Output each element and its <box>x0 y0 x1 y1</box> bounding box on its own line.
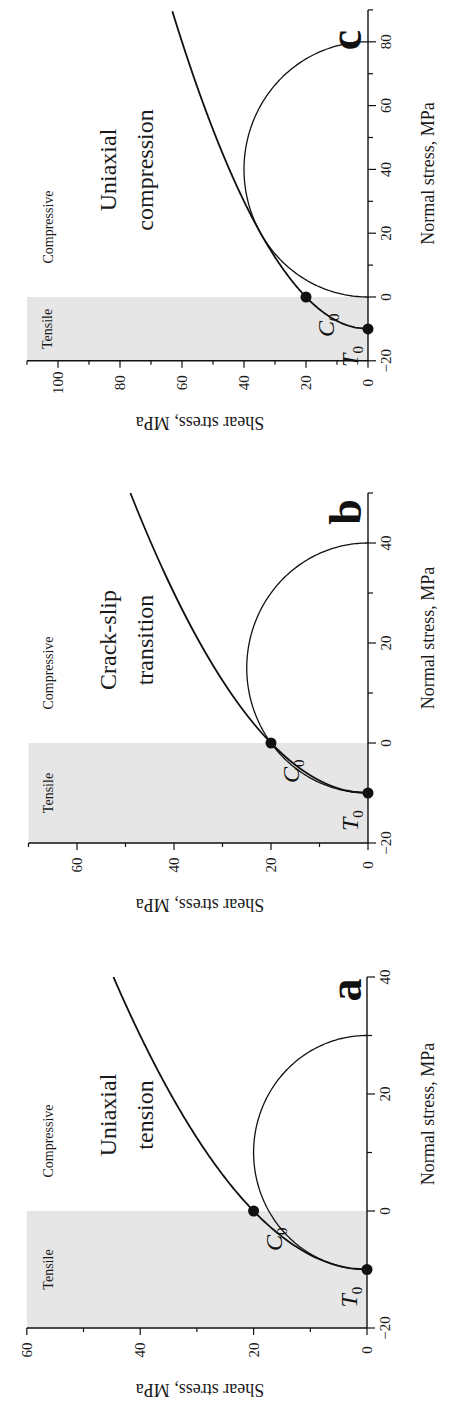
tau-tick-label: 60 <box>19 1343 35 1358</box>
sigma-tick-label: 0 <box>378 293 394 301</box>
tau-tick-label: 20 <box>246 1343 262 1358</box>
y-axis-title: Shear stress, MPa <box>136 413 265 433</box>
panel-b: −20020400204060Normal stress, MPaShear s… <box>29 493 439 915</box>
panel-letter-c: c <box>320 30 371 50</box>
annotation-line-2: compression <box>132 109 158 230</box>
x-axis-title: Normal stress, MPa <box>418 1043 438 1186</box>
sigma-tick-label: 60 <box>378 98 394 113</box>
annotation-line-1: Uniaxial <box>95 128 121 211</box>
tau-tick-label: 40 <box>166 858 182 873</box>
sigma-tick-label: 80 <box>378 34 394 49</box>
tau-tick-label: 20 <box>298 375 314 390</box>
griffith-envelope <box>172 11 368 329</box>
tau-tick-label: 0 <box>360 861 376 869</box>
panel-letter-b: b <box>320 499 371 525</box>
point-c0 <box>301 292 312 303</box>
tensile-label: Tensile <box>41 1249 56 1289</box>
sigma-tick-label: 40 <box>378 162 394 177</box>
sigma-tick-label: 0 <box>377 1207 393 1215</box>
point-t0 <box>363 788 374 799</box>
panel-a: −20020400204060Normal stress, MPaShear s… <box>19 970 438 1401</box>
sigma-tick-label: −20 <box>378 349 394 372</box>
sigma-tick-label: 20 <box>378 226 394 241</box>
annotation-line-1: Crack-slip <box>95 590 121 690</box>
sigma-tick-label: 0 <box>378 739 394 747</box>
sigma-tick-label: −20 <box>377 1316 393 1339</box>
point-c0 <box>248 1206 259 1217</box>
tau-tick-label: 100 <box>50 372 66 395</box>
tau-tick-label: 0 <box>360 379 376 387</box>
tau-tick-label: 40 <box>236 375 252 390</box>
x-axis-title: Normal stress, MPa <box>418 102 438 245</box>
tensile-region <box>27 1211 367 1328</box>
tau-tick-label: 80 <box>112 375 128 390</box>
sigma-tick-label: 20 <box>378 636 394 651</box>
y-axis-title: Shear stress, MPa <box>136 895 265 915</box>
annotation-line-2: tension <box>132 1080 158 1149</box>
figure-canvas: −20020400204060Normal stress, MPaShear s… <box>0 0 452 1426</box>
tau-tick-label: 60 <box>69 858 85 873</box>
tensile-label: Tensile <box>41 309 56 349</box>
annotation-line-2: transition <box>132 595 158 686</box>
x-axis-title: Normal stress, MPa <box>418 567 438 710</box>
sigma-tick-label: −20 <box>378 831 394 854</box>
panel-letter-a: a <box>320 979 371 1002</box>
tau-tick-label: 20 <box>263 858 279 873</box>
tau-tick-label: 60 <box>174 375 190 390</box>
annotation-line-1: Uniaxial <box>95 1073 121 1156</box>
sigma-tick-label: 20 <box>377 1087 393 1102</box>
sigma-tick-label: 40 <box>378 536 394 551</box>
tensile-region <box>29 743 369 843</box>
panel-c: −20020406080020406080100Normal stress, M… <box>27 10 438 433</box>
tau-tick-label: 40 <box>132 1343 148 1358</box>
compressive-label: Compressive <box>41 636 56 709</box>
mohr-circle <box>244 42 368 297</box>
point-t0 <box>363 323 374 334</box>
tau-tick-label: 0 <box>359 1346 375 1354</box>
point-t0 <box>362 1264 373 1275</box>
point-c0 <box>266 738 277 749</box>
tensile-label: Tensile <box>41 773 56 813</box>
y-axis-title: Shear stress, MPa <box>136 1380 265 1400</box>
compressive-label: Compressive <box>41 1104 56 1177</box>
compressive-label: Compressive <box>41 190 56 263</box>
sigma-tick-label: 40 <box>377 970 393 985</box>
